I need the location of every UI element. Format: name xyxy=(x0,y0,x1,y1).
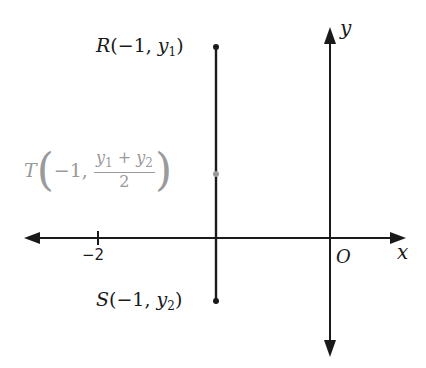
label-point-s: S(−1, y2) xyxy=(96,288,182,313)
label-t-sub-a: 1 xyxy=(105,156,113,170)
label-t-close-paren: ) xyxy=(155,144,172,195)
label-r-var: y xyxy=(158,34,169,56)
label-r-open: (−1, xyxy=(110,34,158,56)
label-s-close: ) xyxy=(175,288,182,310)
y-axis-label: y xyxy=(340,16,351,40)
label-t-num-a: y xyxy=(96,148,105,167)
label-s-name: S xyxy=(96,288,109,310)
label-t-open-paren: ( xyxy=(37,144,54,195)
label-t-num-b: y xyxy=(136,148,145,167)
x-axis-left-arrow-icon xyxy=(24,232,40,244)
label-r-close: ) xyxy=(176,34,183,56)
point-s xyxy=(213,298,219,304)
point-r xyxy=(213,44,219,50)
label-s-open: (−1, xyxy=(109,288,157,310)
x-axis-label: x xyxy=(397,240,408,264)
label-t-den: 2 xyxy=(94,173,155,191)
label-t-fraction: y1 + y2 2 xyxy=(94,149,155,191)
label-t-x: −1, xyxy=(54,159,88,181)
origin-label: O xyxy=(336,246,351,267)
label-s-sub: 2 xyxy=(167,299,175,313)
label-r-name: R xyxy=(96,34,110,56)
label-s-var: y xyxy=(157,288,168,310)
label-t-sub-b: 2 xyxy=(145,156,153,170)
tick-label-neg2: −2 xyxy=(82,246,104,264)
label-t-name: T xyxy=(24,159,37,181)
y-axis-down-arrow-icon xyxy=(324,340,336,357)
label-t-plus: + xyxy=(113,148,137,167)
label-point-t: T(−1, y1 + y2 2 ) xyxy=(24,148,172,192)
y-axis-up-arrow-icon xyxy=(324,27,336,44)
y-axis xyxy=(324,27,336,357)
point-t-midpoint xyxy=(213,171,219,177)
label-point-r: R(−1, y1) xyxy=(96,34,184,59)
